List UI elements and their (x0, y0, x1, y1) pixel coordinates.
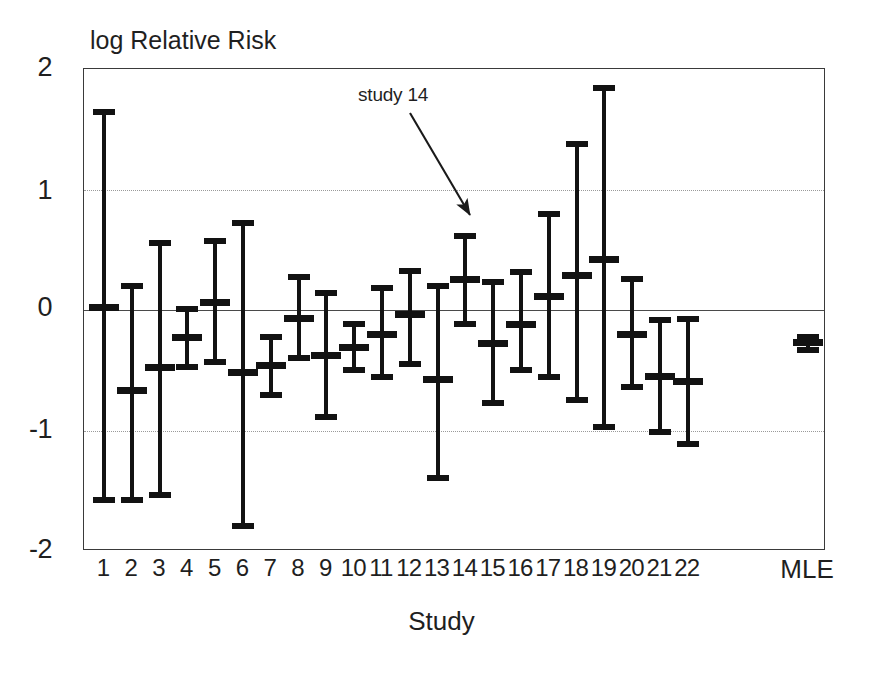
error-bar-lower-cap (454, 321, 476, 327)
error-bar-upper-cap (176, 306, 198, 312)
point-estimate-marker (145, 364, 175, 371)
point-estimate-marker (673, 378, 703, 385)
error-bar-22[interactable] (673, 316, 703, 447)
point-estimate-marker (423, 376, 453, 383)
point-estimate-marker (395, 311, 425, 318)
error-bar-13[interactable] (423, 283, 453, 481)
point-estimate-marker (367, 331, 397, 338)
x-tick-label-12: 12 (396, 556, 421, 580)
error-bar-upper-cap (315, 290, 337, 296)
x-tick-label-20: 20 (619, 556, 644, 580)
y-tick-label-1: 1 (8, 177, 52, 204)
error-bar-lower-cap (677, 441, 699, 447)
point-estimate-marker (339, 344, 369, 351)
error-bar-lower-cap (797, 347, 819, 353)
point-estimate-marker (534, 293, 564, 300)
x-tick-label-10: 10 (341, 556, 366, 580)
error-bar-upper-cap (149, 240, 171, 246)
point-estimate-marker (506, 321, 536, 328)
error-bar-5[interactable] (200, 238, 230, 366)
error-bar-7[interactable] (256, 334, 286, 398)
error-bar-8[interactable] (284, 274, 314, 361)
error-bar-14[interactable] (450, 233, 480, 327)
x-tick-label-7: 7 (264, 556, 277, 580)
point-estimate-marker (589, 256, 619, 263)
error-bar-lower-cap (566, 397, 588, 403)
x-tick-label-3: 3 (152, 556, 165, 580)
error-bar-4[interactable] (172, 306, 202, 370)
error-bar-mle[interactable] (793, 334, 823, 353)
error-bar-lower-cap (288, 355, 310, 361)
error-bar-12[interactable] (395, 268, 425, 367)
error-bar-11[interactable] (367, 285, 397, 380)
point-estimate-marker (478, 340, 508, 347)
x-tick-label-6: 6 (236, 556, 249, 580)
y-tick-label-0: 0 (8, 294, 52, 321)
point-estimate-marker (228, 369, 258, 376)
error-bar-18[interactable] (562, 141, 592, 402)
error-bar-upper-cap (371, 285, 393, 291)
error-bar-21[interactable] (645, 317, 675, 435)
point-estimate-marker (172, 334, 202, 341)
error-bar-lower-cap (176, 364, 198, 370)
error-bar-16[interactable] (506, 269, 536, 373)
point-estimate-marker (562, 272, 592, 279)
error-bar-10[interactable] (339, 321, 369, 373)
point-estimate-marker (89, 304, 119, 311)
x-tick-label-19: 19 (591, 556, 616, 580)
error-bar-lower-cap (649, 429, 671, 435)
error-bar-upper-cap (93, 109, 115, 115)
error-bar-lower-cap (260, 392, 282, 398)
x-tick-label-13: 13 (424, 556, 449, 580)
x-tick-label-14: 14 (452, 556, 477, 580)
point-estimate-marker (617, 331, 647, 338)
error-bar-3[interactable] (145, 240, 175, 498)
point-estimate-marker (450, 276, 480, 283)
x-tick-label-22: 22 (674, 556, 699, 580)
error-bar-upper-cap (510, 269, 532, 275)
y-axis-title: log Relative Risk (90, 26, 276, 55)
error-bar-upper-cap (621, 276, 643, 282)
error-bar-upper-cap (427, 283, 449, 289)
point-estimate-marker (256, 362, 286, 369)
error-bar-lower-cap (427, 475, 449, 481)
error-bar-lower-cap (538, 374, 560, 380)
y-tick-label-neg-1: -1 (8, 416, 52, 443)
error-bar-upper-cap (399, 268, 421, 274)
point-estimate-marker (793, 339, 823, 346)
plot-area (83, 68, 825, 550)
y-tick-label-2: 2 (8, 54, 52, 81)
error-bar-19[interactable] (589, 85, 619, 431)
x-tick-label-4: 4 (180, 556, 193, 580)
point-estimate-marker (200, 299, 230, 306)
error-bar-lower-cap (371, 374, 393, 380)
error-bar-lower-cap (593, 424, 615, 430)
error-bar-9[interactable] (311, 290, 341, 420)
error-bar-upper-cap (121, 283, 143, 289)
error-bar-17[interactable] (534, 211, 564, 380)
error-bar-upper-cap (649, 317, 671, 323)
x-tick-label-2: 2 (125, 556, 138, 580)
point-estimate-marker (311, 352, 341, 359)
annotation-study-14-label: study 14 (358, 84, 428, 106)
x-axis-title: Study (0, 606, 883, 637)
error-bar-lower-cap (149, 492, 171, 498)
error-bar-1[interactable] (89, 109, 119, 503)
x-tick-label-mle: MLE (780, 556, 833, 582)
x-tick-label-18: 18 (563, 556, 588, 580)
error-bar-lower-cap (399, 361, 421, 367)
error-bar-6[interactable] (228, 220, 258, 530)
error-bar-upper-cap (566, 141, 588, 147)
error-bar-15[interactable] (478, 279, 508, 407)
error-bar-upper-cap (677, 316, 699, 322)
error-bar-series (84, 69, 826, 551)
x-tick-label-8: 8 (291, 556, 304, 580)
error-bar-2[interactable] (117, 283, 147, 502)
error-bar-lower-cap (510, 367, 532, 373)
point-estimate-marker (645, 373, 675, 380)
error-bar-lower-cap (482, 400, 504, 406)
x-tick-label-21: 21 (646, 556, 671, 580)
x-tick-label-17: 17 (535, 556, 560, 580)
error-bar-20[interactable] (617, 276, 647, 389)
forest-plot-figure: log Relative Risk 2 1 0 -1 -2 1234567891… (0, 0, 883, 691)
